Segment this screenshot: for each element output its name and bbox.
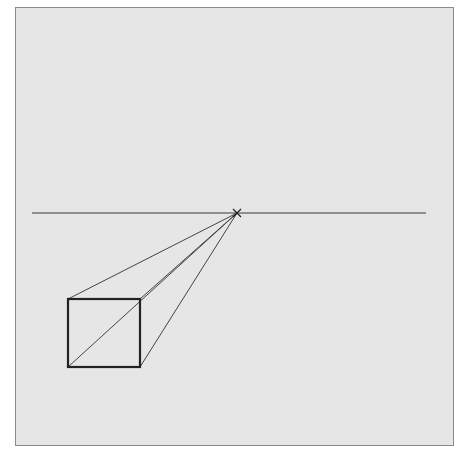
projection-line bbox=[68, 213, 237, 299]
projection-line bbox=[68, 213, 237, 367]
projection-line bbox=[140, 213, 237, 367]
projection-lines bbox=[68, 213, 237, 367]
perspective-drawing bbox=[0, 0, 460, 452]
